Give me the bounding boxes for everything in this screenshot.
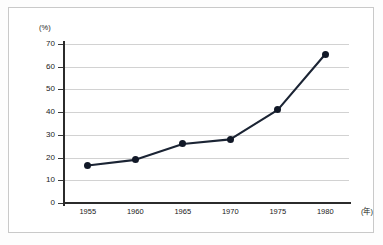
y-axis-tick-label: 20: [29, 154, 55, 162]
y-axis-tick-label: 0: [29, 199, 55, 207]
data-point-marker: [322, 51, 329, 58]
x-axis-tick-label: 1960: [115, 207, 155, 216]
x-axis-tick-label: 1955: [68, 207, 108, 216]
y-axis-tick-label: 60: [29, 63, 55, 71]
y-axis-tick-label: 70: [29, 40, 55, 48]
y-axis-unit-label: (%): [39, 23, 51, 32]
x-axis-tick-label: 1965: [163, 207, 203, 216]
x-axis-unit-label: (年): [361, 205, 373, 216]
y-axis-tick-label: 40: [29, 108, 55, 116]
y-axis-tick-label: 10: [29, 176, 55, 184]
data-point-marker: [227, 136, 234, 143]
chart-frame: (%) (年) 010203040506070 1955196019651970…: [8, 7, 374, 233]
x-axis-tick-label: 1970: [210, 207, 250, 216]
chart-page: (%) (年) 010203040506070 1955196019651970…: [0, 0, 383, 245]
y-axis-tick-label: 30: [29, 131, 55, 139]
x-axis-tick-label: 1975: [258, 207, 298, 216]
series-line: [64, 44, 349, 203]
plot-area: [64, 44, 349, 203]
y-axis-tick-label: 50: [29, 85, 55, 93]
x-axis-tick-label: 1980: [305, 207, 345, 216]
